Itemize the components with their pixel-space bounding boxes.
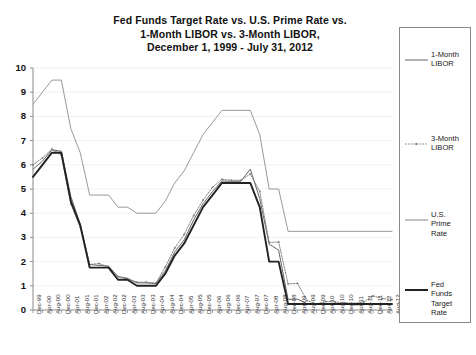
x-axis-tick-label: Apr-02: [102, 296, 109, 314]
y-axis-tick-label: 6: [4, 159, 26, 170]
y-axis-tick-label: 10: [4, 62, 26, 73]
x-axis-tick-label: Dec-07: [262, 294, 269, 314]
x-axis-tick-label: Apr-06: [215, 296, 222, 314]
x-axis-tick-label: Apr-00: [45, 296, 52, 314]
x-axis-tick-label: Apr-01: [73, 296, 80, 314]
x-axis-tick-label: Dec-04: [177, 294, 184, 314]
x-axis-tick-label: Dec-11: [376, 295, 383, 314]
x-axis-tick-label: Aug-07: [253, 294, 260, 314]
x-axis-tick-label: Apr-05: [187, 296, 194, 314]
chart-legend: 1-MonthLIBOR3-MonthLIBORU.S.PrimeRateFed…: [399, 27, 471, 323]
x-axis-tick-label: Aug-11: [366, 295, 373, 314]
x-axis-tick-label: Aug-10: [338, 294, 345, 314]
x-axis-tick-label: Dec-00: [64, 294, 71, 314]
x-axis-tick-label: Aug-05: [196, 294, 203, 314]
x-axis-tick-label: Apr-07: [243, 296, 250, 314]
x-axis-tick-label: Apr-08: [272, 296, 279, 314]
legend-item-label: 3-MonthLIBOR: [431, 134, 471, 153]
x-axis-tick-label: Apr-04: [158, 296, 165, 314]
x-axis-tick-label: Aug-06: [224, 294, 231, 314]
legend-swatch-icon: [404, 286, 429, 294]
y-axis-tick-label: 1: [4, 280, 26, 291]
legend-swatch-icon: [404, 140, 429, 148]
y-axis-tick-label: 7: [4, 135, 26, 146]
x-axis-tick-label: Dec-03: [149, 294, 156, 314]
legend-item-label: FedFundsTargetRate: [431, 280, 471, 318]
y-axis-tick-label: 9: [4, 86, 26, 97]
x-axis-tick-label: Aug-01: [83, 294, 90, 314]
y-axis-tick-label: 3: [4, 231, 26, 242]
y-axis-tick-label: 8: [4, 110, 26, 121]
legend-item-label: U.S.PrimeRate: [431, 210, 471, 238]
x-axis-tick-label: Dec-99: [35, 294, 42, 314]
x-axis-tick-label: Aug-03: [139, 294, 146, 314]
y-axis-tick-label: 0: [4, 304, 26, 315]
x-axis-tick-label: Aug-02: [111, 294, 118, 314]
x-axis-tick-label: Dec-10: [347, 294, 354, 314]
x-axis-tick-label: Dec-01: [92, 294, 99, 314]
legend-swatch-icon: [404, 56, 429, 64]
y-axis-tick-label: 2: [4, 256, 26, 267]
legend-item-label: 1-MonthLIBOR: [431, 50, 471, 69]
x-axis-tick-label: Aug-08: [281, 294, 288, 314]
x-axis-tick-label: Aug-09: [309, 294, 316, 314]
x-axis-tick-label: Apr-12: [385, 296, 392, 314]
x-axis-tick-label: Apr-03: [130, 296, 137, 314]
x-axis-tick-label: Apr-10: [328, 296, 335, 314]
x-axis-tick-label: Dec-06: [234, 294, 241, 314]
x-axis-tick-label: Apr-11: [357, 296, 364, 314]
y-axis-tick-label: 4: [4, 207, 26, 218]
x-axis-tick-label: Aug-00: [54, 294, 61, 314]
x-axis-tick-label: Dec-02: [120, 294, 127, 314]
chart-container: Fed Funds Target Rate vs. U.S. Prime Rat…: [0, 0, 476, 355]
x-axis-tick-label: Dec-08: [290, 294, 297, 314]
x-axis-tick-label: Dec-09: [319, 294, 326, 314]
x-axis-tick-label: Dec-05: [205, 294, 212, 314]
x-axis-tick-label: Apr-09: [300, 296, 307, 314]
legend-swatch-icon: [404, 216, 429, 224]
x-axis-tick-label: Aug-04: [168, 294, 175, 314]
y-axis-tick-label: 5: [4, 183, 26, 194]
